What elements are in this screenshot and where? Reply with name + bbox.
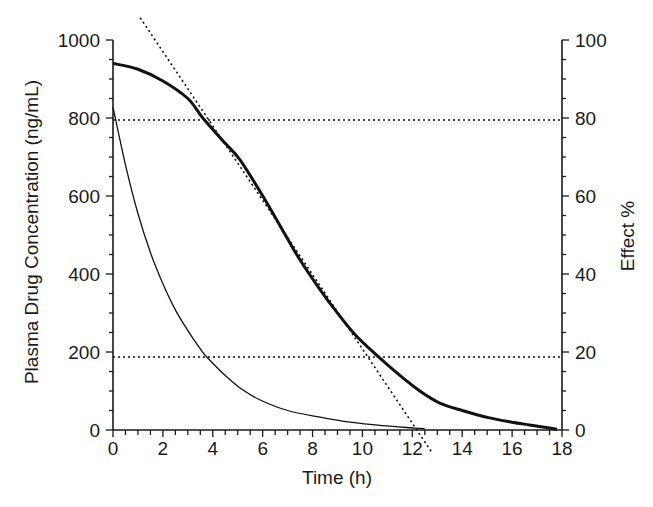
x-tick-label: 12 — [402, 438, 423, 459]
y2-tick-label: 100 — [575, 30, 607, 51]
x-tick-label: 16 — [502, 438, 523, 459]
y2-tick-label: 20 — [575, 342, 596, 363]
x-tick-label: 6 — [257, 438, 268, 459]
x-tick-label: 14 — [452, 438, 474, 459]
series-layer — [113, 18, 562, 453]
x-axis-title: Time (h) — [302, 467, 372, 488]
y2-axis-title: Effect % — [617, 201, 638, 272]
x-tick-label: 2 — [158, 438, 169, 459]
y-tick-label: 800 — [68, 108, 100, 129]
x-tick-label: 10 — [352, 438, 373, 459]
pk-pd-chart: 0246810121416180200400600800100002040608… — [0, 0, 653, 507]
x-tick-label: 8 — [307, 438, 318, 459]
axes-layer — [106, 40, 569, 437]
y-tick-label: 0 — [89, 420, 100, 441]
y2-tick-label: 0 — [575, 420, 586, 441]
series-effect-thick-curve — [113, 63, 557, 429]
y2-tick-label: 40 — [575, 264, 596, 285]
y-tick-label: 600 — [68, 186, 100, 207]
y-tick-label: 1000 — [58, 30, 100, 51]
y2-tick-label: 80 — [575, 108, 596, 129]
series-plasma-drug-concentration-thin-curve — [113, 107, 425, 429]
x-tick-label: 0 — [108, 438, 119, 459]
labels-layer: 0246810121416180200400600800100002040608… — [58, 30, 607, 459]
x-tick-label: 4 — [207, 438, 218, 459]
y2-tick-label: 60 — [575, 186, 596, 207]
y-tick-label: 400 — [68, 264, 100, 285]
x-tick-label: 18 — [551, 438, 572, 459]
y-tick-label: 200 — [68, 342, 100, 363]
y-axis-title: Plasma Drug Concentration (ng/mL) — [21, 80, 42, 384]
